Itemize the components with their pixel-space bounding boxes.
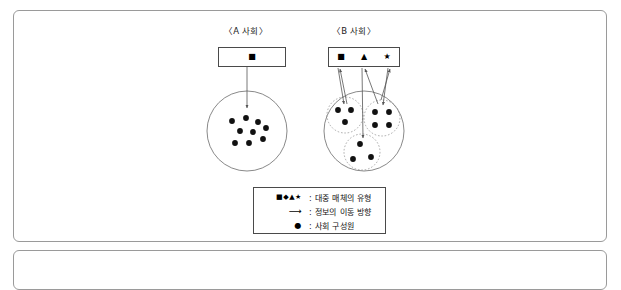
member-dot: [260, 136, 266, 142]
member-dot-icon: ●: [256, 221, 302, 230]
society-b-subgroup-3-members: [350, 141, 374, 162]
member-dot: [237, 128, 243, 134]
legend: ■◆▲★ : 대중 매체의 유형 ⟶ : 정보의 이동 방향 ● : 사회 구성…: [253, 187, 386, 234]
society-b-diagram: [324, 68, 404, 171]
member-dot: [348, 107, 354, 113]
media-type-icons: ■◆▲★: [256, 193, 302, 201]
member-dot: [386, 109, 392, 115]
society-b-subgroup-1-members: [335, 107, 354, 125]
member-dot: [372, 122, 378, 128]
member-dot: [368, 154, 374, 160]
information-flow-arrow: [381, 69, 390, 100]
member-dot: [350, 156, 356, 162]
arrow-icon: ⟶: [256, 206, 302, 216]
information-flow-arrow: [365, 69, 378, 104]
subgroup-circle: [327, 97, 363, 133]
member-dot: [250, 129, 256, 135]
information-flow-arrow: [362, 68, 363, 138]
member-dot: [229, 118, 235, 124]
member-dot: [246, 140, 252, 146]
legend-row: ■◆▲★ : 대중 매체의 유형: [256, 190, 381, 204]
legend-label: : 사회 구성원: [302, 220, 354, 231]
member-dot: [232, 140, 238, 146]
member-dot: [335, 107, 341, 113]
member-dot: [372, 109, 378, 115]
society-b-subgroup-2-members: [372, 109, 392, 128]
member-dot: [255, 119, 261, 125]
member-dot: [357, 141, 363, 147]
member-dot: [263, 125, 269, 131]
society-a-members: [229, 115, 269, 146]
legend-label: : 정보의 이동 방향: [302, 206, 372, 217]
member-dot: [243, 115, 249, 121]
society-a-diagram: [207, 67, 287, 171]
member-dot: [386, 122, 392, 128]
legend-row: ⟶ : 정보의 이동 방향: [256, 204, 381, 218]
legend-row: ● : 사회 구성원: [256, 218, 381, 232]
legend-label: : 대중 매체의 유형: [302, 192, 372, 203]
information-flow-arrow: [383, 68, 388, 105]
member-dot: [342, 119, 348, 125]
subgroup-circle: [344, 134, 380, 170]
society-b-boundary-circle: [324, 91, 404, 171]
